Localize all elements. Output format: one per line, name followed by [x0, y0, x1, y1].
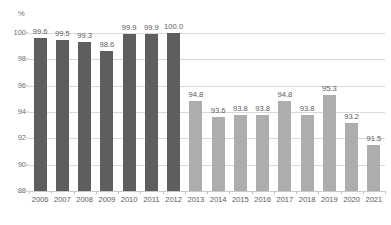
x-tick-label-2008: 2008: [74, 196, 96, 204]
bar-2014: [212, 117, 225, 191]
x-tick-label-2011: 2011: [140, 196, 162, 204]
y-axis-unit-label: %: [18, 10, 25, 18]
x-tick-label-2019: 2019: [318, 196, 340, 204]
y-tick-label-96: 96: [2, 82, 26, 90]
value-label-2007: 99.5: [51, 30, 73, 38]
x-tick-mark-2008: [74, 191, 75, 194]
x-tick-mark-2015: [229, 191, 230, 194]
value-label-2020: 93.2: [341, 113, 363, 121]
x-tick-mark-2013: [185, 191, 186, 194]
x-tick-label-2014: 2014: [207, 196, 229, 204]
bar-2012: [167, 33, 180, 191]
x-tick-mark-2021: [363, 191, 364, 194]
x-tick-label-2016: 2016: [252, 196, 274, 204]
value-label-2013: 94.8: [185, 91, 207, 99]
x-tick-label-2010: 2010: [118, 196, 140, 204]
value-label-2006: 99.6: [29, 28, 51, 36]
x-tick-mark-2010: [118, 191, 119, 194]
x-tick-mark-2019: [318, 191, 319, 194]
value-label-2010: 99.9: [118, 24, 140, 32]
x-tick-mark-2009: [96, 191, 97, 194]
value-label-2008: 99.3: [74, 32, 96, 40]
y-tick-label-100: 100: [2, 29, 26, 37]
x-tick-label-2021: 2021: [363, 196, 385, 204]
x-tick-label-2017: 2017: [274, 196, 296, 204]
value-label-2012: 100.0: [163, 23, 185, 31]
bar-2017: [278, 101, 291, 191]
value-label-2015: 93.8: [229, 105, 251, 113]
bar-2007: [56, 40, 69, 191]
bar-chart: % 889092949698100 99.6200699.5200799.320…: [0, 0, 391, 225]
bar-2011: [145, 34, 158, 191]
x-tick-mark-2020: [341, 191, 342, 194]
x-tick-mark-2017: [274, 191, 275, 194]
value-label-2019: 95.3: [318, 85, 340, 93]
value-label-2017: 94.8: [274, 91, 296, 99]
x-tick-label-2020: 2020: [341, 196, 363, 204]
value-label-2009: 98.6: [96, 41, 118, 49]
x-tick-label-2006: 2006: [29, 196, 51, 204]
x-tick-label-2013: 2013: [185, 196, 207, 204]
value-label-2011: 99.9: [140, 24, 162, 32]
x-tick-label-2015: 2015: [229, 196, 251, 204]
value-label-2014: 93.6: [207, 107, 229, 115]
bar-2013: [189, 101, 202, 191]
x-tick-label-2012: 2012: [163, 196, 185, 204]
x-tick-mark-2007: [51, 191, 52, 194]
bar-2016: [256, 115, 269, 191]
x-tick-mark-2016: [252, 191, 253, 194]
x-tick-label-2007: 2007: [51, 196, 73, 204]
y-tick-label-88: 88: [2, 187, 26, 195]
bar-2009: [100, 51, 113, 191]
y-axis-tick-labels: 889092949698100: [0, 33, 26, 191]
bar-2015: [234, 115, 247, 191]
bar-2008: [78, 42, 91, 191]
y-tick-label-98: 98: [2, 56, 26, 64]
bar-2021: [367, 145, 380, 191]
value-label-2016: 93.8: [252, 105, 274, 113]
value-label-2018: 93.8: [296, 105, 318, 113]
value-label-2021: 91.5: [363, 135, 385, 143]
bar-2010: [123, 34, 136, 191]
x-tick-mark-2006: [29, 191, 30, 194]
bar-2020: [345, 123, 358, 191]
x-tick-mark-2018: [296, 191, 297, 194]
bar-2018: [301, 115, 314, 191]
bar-2006: [34, 38, 47, 191]
y-tick-label-90: 90: [2, 161, 26, 169]
x-tick-label-2009: 2009: [96, 196, 118, 204]
bar-2019: [323, 95, 336, 191]
y-tick-label-92: 92: [2, 135, 26, 143]
x-tick-mark-2014: [207, 191, 208, 194]
x-tick-label-2018: 2018: [296, 196, 318, 204]
y-tick-label-94: 94: [2, 108, 26, 116]
x-tick-mark-2012: [163, 191, 164, 194]
x-tick-mark-end: [385, 191, 386, 194]
x-tick-mark-2011: [140, 191, 141, 194]
